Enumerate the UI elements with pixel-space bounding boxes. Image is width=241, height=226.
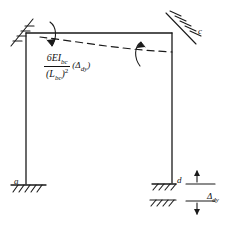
formula-numerator-main: 6EI (47, 52, 61, 63)
settlement-subscript: dy (212, 196, 219, 204)
formula-denominator: (Lbc)2 (44, 67, 70, 82)
formula-denominator-subscript: bc (55, 74, 62, 82)
moment-formula: 6EIbc (Lbc)2 (Δdy) (44, 52, 90, 82)
formula-numerator-subscript: bc (61, 58, 68, 66)
support-d-settled-ground (150, 200, 176, 206)
node-label-c: c (198, 27, 202, 36)
formula-denominator-exponent: 2 (65, 67, 69, 75)
node-label-a: a (14, 177, 19, 186)
deflected-shape-curve (40, 37, 172, 52)
support-a-fixed (11, 185, 46, 192)
settlement-label: Δdy (207, 192, 219, 204)
formula-fraction: 6EIbc (Lbc)2 (44, 52, 70, 82)
moment-arrow-c (136, 42, 145, 66)
formula-delta-close: ) (87, 60, 90, 70)
formula-delta-open: (Δ (72, 60, 80, 70)
frame-drawing (0, 0, 241, 226)
diagram-canvas: c a d Δdy 6EIbc (Lbc)2 (Δdy) (0, 0, 241, 226)
formula-numerator: 6EIbc (45, 52, 70, 66)
support-c-fixed (166, 11, 201, 44)
moment-arrow-b (47, 22, 56, 46)
node-label-d: d (177, 176, 182, 185)
support-d-fixed (152, 184, 176, 190)
formula-denominator-main: (L (46, 68, 55, 79)
formula-delta-term: (Δdy) (72, 60, 90, 74)
